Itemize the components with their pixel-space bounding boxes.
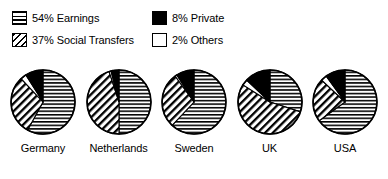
- pie-label-netherlands: Netherlands: [89, 142, 147, 155]
- legend-label-others: 2% Others: [172, 34, 223, 46]
- chart-legend: 54% Earnings 8% Private 37% Social Trans…: [12, 7, 312, 51]
- pie-chart-usa: [311, 68, 379, 136]
- legend-label-private: 8% Private: [172, 12, 224, 24]
- legend-item-private: 8% Private: [152, 8, 292, 28]
- pie-cell-uk: UK: [235, 68, 305, 173]
- pie-chart-sweden: [160, 68, 228, 136]
- pie-cell-netherlands: Netherlands: [84, 68, 154, 173]
- pie-cell-germany: Germany: [8, 68, 78, 173]
- legend-item-earnings: 54% Earnings: [12, 8, 152, 28]
- legend-label-social-transfers: 37% Social Transfers: [32, 34, 134, 46]
- pie-label-usa: USA: [334, 142, 356, 155]
- legend-label-earnings: 54% Earnings: [32, 12, 99, 24]
- pie-label-uk: UK: [262, 142, 277, 155]
- pie-cell-sweden: Sweden: [159, 68, 229, 173]
- pie-cell-usa: USA: [310, 68, 380, 173]
- pie-chart-row: Germany Netherlands Sweden UK USA: [0, 68, 388, 173]
- legend-swatch-social-transfers-icon: [12, 33, 27, 47]
- legend-item-others: 2% Others: [152, 30, 292, 50]
- legend-swatch-private-icon: [152, 11, 167, 25]
- legend-swatch-others-icon: [152, 33, 167, 47]
- pie-label-germany: Germany: [21, 142, 66, 155]
- pie-slice-earnings: [119, 70, 151, 134]
- legend-item-social-transfers: 37% Social Transfers: [12, 30, 152, 50]
- pie-chart-germany: [9, 68, 77, 136]
- pie-chart-netherlands: [85, 68, 153, 136]
- pie-chart-uk: [236, 68, 304, 136]
- pie-label-sweden: Sweden: [174, 142, 213, 155]
- legend-swatch-earnings-icon: [12, 11, 27, 25]
